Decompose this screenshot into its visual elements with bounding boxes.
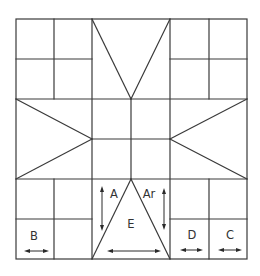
star-point-right	[170, 99, 247, 179]
label-Ar: Ar	[143, 187, 156, 201]
star-point-top	[92, 19, 170, 99]
arrow-Ar-vertical-icon	[162, 188, 166, 230]
four-patch-bottom-right	[170, 179, 247, 259]
quilt-block-diagram: A Ar E B D C	[0, 0, 260, 276]
arrow-E-horizontal-icon	[107, 249, 161, 253]
center-four-patch	[92, 99, 170, 179]
four-patch-bottom-left	[16, 179, 92, 259]
four-patch-top-right	[170, 19, 247, 99]
arrow-A-vertical-icon	[100, 186, 104, 231]
label-C: C	[226, 228, 234, 242]
star-point-left	[16, 99, 92, 179]
label-E: E	[127, 217, 134, 231]
arrow-D-horizontal-icon	[180, 248, 203, 252]
label-D: D	[188, 228, 197, 242]
four-patch-top-left	[16, 19, 92, 99]
arrow-C-horizontal-icon	[218, 248, 242, 252]
arrow-B-horizontal-icon	[24, 249, 49, 253]
label-A: A	[110, 187, 118, 201]
label-B: B	[30, 229, 38, 243]
